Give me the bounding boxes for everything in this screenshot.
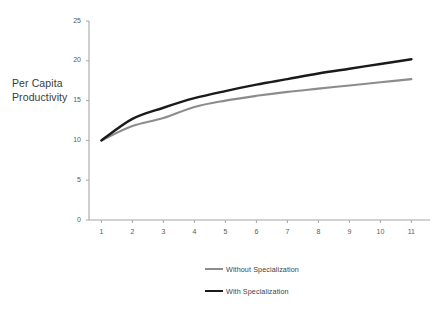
legend-item-with-specialization: With Specialization xyxy=(0,280,447,302)
y-axis-tick-label: 25 xyxy=(65,17,81,24)
y-axis-tick-label: 15 xyxy=(65,96,81,103)
x-axis-tick-label: 9 xyxy=(341,228,357,235)
x-axis-tick-label: 10 xyxy=(372,228,388,235)
x-axis-tick-label: 6 xyxy=(248,228,264,235)
y-axis-tick-label: 20 xyxy=(65,56,81,63)
x-axis-tick-label: 5 xyxy=(217,228,233,235)
x-axis-tick-label: 11 xyxy=(403,228,419,235)
legend-line-icon-without xyxy=(205,268,223,270)
y-axis-tick-label: 0 xyxy=(65,216,81,223)
y-axis-tick-label: 5 xyxy=(65,176,81,183)
series-line-without-specialization xyxy=(101,79,411,140)
x-axis-tick-label: 7 xyxy=(279,228,295,235)
legend-line-icon-with xyxy=(205,290,223,292)
axes-group xyxy=(86,21,430,223)
series-line-with-specialization xyxy=(101,59,411,140)
series-group xyxy=(101,59,411,140)
x-axis-tick-label: 2 xyxy=(124,228,140,235)
chart-legend: Without Specialization With Specializati… xyxy=(0,258,447,302)
chart-container: Per Capita Productivity 0510152025 12345… xyxy=(0,0,447,317)
x-axis-tick-label: 4 xyxy=(186,228,202,235)
y-axis-tick-label: 10 xyxy=(65,136,81,143)
x-axis-tick-label: 3 xyxy=(155,228,171,235)
legend-label-without: Without Specialization xyxy=(226,265,299,274)
x-axis-tick-label: 8 xyxy=(310,228,326,235)
legend-label-with: With Specialization xyxy=(226,287,289,296)
legend-item-without-specialization: Without Specialization xyxy=(0,258,447,280)
x-axis-tick-label: 1 xyxy=(93,228,109,235)
